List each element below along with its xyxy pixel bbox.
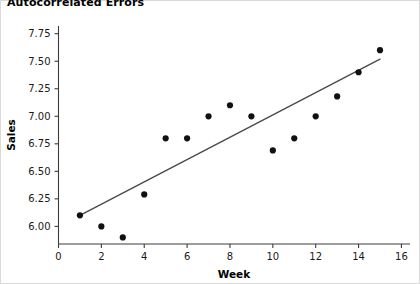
data-point — [313, 113, 319, 119]
data-point — [98, 223, 104, 229]
data-point — [270, 147, 276, 153]
y-axis-title: Sales — [5, 119, 17, 151]
y-tick-label: 7.50 — [28, 56, 50, 67]
data-point — [355, 69, 361, 75]
chart-figure: Autocorrelated Errors 6.006.256.506.757.… — [0, 0, 420, 284]
y-tick-label: 6.00 — [28, 221, 50, 232]
x-tick-label: 4 — [141, 251, 147, 262]
data-point — [120, 234, 126, 240]
regression-line — [80, 59, 380, 215]
y-tick-label: 7.25 — [28, 83, 50, 94]
x-tick-label: 8 — [227, 251, 233, 262]
y-tick-label: 7.00 — [28, 111, 50, 122]
x-tick-label: 6 — [184, 251, 190, 262]
data-point — [141, 191, 147, 197]
x-tick-label: 16 — [395, 251, 408, 262]
y-tick-label: 6.25 — [28, 193, 50, 204]
x-tick-label: 12 — [309, 251, 322, 262]
data-point — [205, 113, 211, 119]
data-point — [184, 135, 190, 141]
x-axis-ticks: 0246810121416 — [55, 244, 407, 262]
y-tick-label: 6.75 — [28, 138, 50, 149]
data-point — [77, 212, 83, 218]
data-point — [163, 135, 169, 141]
x-axis-title: Week — [218, 268, 251, 280]
x-tick-label: 10 — [266, 251, 279, 262]
y-axis-ticks: 6.006.256.506.757.007.257.507.75 — [28, 28, 58, 232]
data-point — [334, 93, 340, 99]
data-point — [248, 113, 254, 119]
data-point — [227, 102, 233, 108]
scatter-plot: 6.006.256.506.757.007.257.507.75 0246810… — [1, 1, 420, 284]
data-points — [77, 47, 383, 240]
y-tick-label: 7.75 — [28, 28, 50, 39]
data-point — [291, 135, 297, 141]
fit-line-segment — [80, 59, 380, 215]
data-point — [377, 47, 383, 53]
x-tick-label: 2 — [98, 251, 104, 262]
x-tick-label: 14 — [352, 251, 365, 262]
x-tick-label: 0 — [55, 251, 61, 262]
y-tick-label: 6.50 — [28, 166, 50, 177]
